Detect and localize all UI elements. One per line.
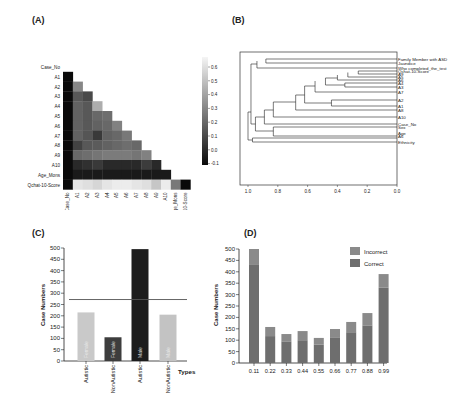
heatmap-cell [102, 121, 112, 131]
heatmap-cell [132, 150, 142, 160]
x-tick-label: 0.44 [297, 368, 308, 374]
heatmap-cell [112, 160, 122, 170]
heatmap-cell [63, 111, 73, 121]
heatmap-cell [122, 180, 132, 190]
heatmap-cell [92, 150, 102, 160]
bar-correct [265, 336, 275, 363]
heatmap-cell [141, 170, 151, 180]
heatmap-cell [112, 170, 122, 180]
heatmap-cell [63, 170, 73, 180]
bar-incorrect [281, 334, 291, 341]
bar-incorrect [362, 313, 372, 325]
heatmap-cell [181, 180, 191, 190]
heatmap-cell [63, 131, 73, 141]
heatmap-cell [92, 121, 102, 131]
bar [132, 249, 149, 361]
heatmap-col-label: A1 [75, 192, 80, 198]
dendrogram-leaf-label: Sex [398, 125, 406, 130]
heatmap-col-label: A7 [134, 192, 139, 198]
heatmap-col-label: A6 [124, 192, 129, 198]
heatmap-cell [83, 91, 93, 101]
legend-swatch [350, 259, 360, 267]
heatmap-cell [83, 121, 93, 131]
bar-correct [314, 345, 324, 363]
dendrogram-x-tick: 0.0 [394, 189, 401, 194]
heatmap-row-label: Qchat-10-Score [28, 183, 61, 188]
x-tick-label: NonAutistic [110, 365, 116, 393]
heatmap-cell [102, 140, 112, 150]
colorbar-tick: -0.1 [211, 161, 219, 166]
x-tick-label: 0.55 [313, 368, 324, 374]
y-tick-label: 100 [225, 337, 236, 343]
y-tick-label: 400 [225, 269, 236, 275]
heatmap-cell [102, 170, 112, 180]
x-axis-label: Types [178, 368, 196, 375]
heatmap-cell [83, 101, 93, 111]
heatmap-cell [112, 140, 122, 150]
heatmap-col-label: A3 [95, 192, 100, 198]
x-tick-label: NonAutistic [165, 365, 171, 393]
score-stacked-bar-chart: 050100150200250300350400450500Case Numbe… [235, 210, 470, 416]
bar-incorrect [265, 327, 275, 336]
heatmap-cell [63, 91, 73, 101]
heatmap-cell [92, 180, 102, 190]
bar-inner-label: Female [83, 341, 89, 358]
heatmap-cell [63, 140, 73, 150]
dendrogram-x-tick: 0.6 [304, 189, 311, 194]
bar-incorrect [330, 329, 340, 338]
heatmap-cell [112, 131, 122, 141]
y-tick-label: 350 [50, 279, 61, 285]
heatmap-col-label: Qchat-10-Score [183, 192, 188, 210]
x-tick-label: Autistic [137, 365, 143, 383]
y-tick-label: 200 [50, 313, 61, 319]
y-tick-label: 350 [225, 280, 236, 286]
heatmap-cell [92, 101, 102, 111]
heatmap-cell [73, 160, 83, 170]
legend-label: Incorrect [364, 249, 388, 255]
heatmap-cell [171, 180, 181, 190]
heatmap-cell [102, 180, 112, 190]
y-tick-label: 150 [50, 324, 61, 330]
heatmap-cell [161, 180, 171, 190]
dendrogram-x-tick: 0.8 [275, 189, 282, 194]
heatmap-cell [73, 82, 83, 92]
bar-correct [330, 338, 340, 363]
colorbar-tick: 0.6 [211, 65, 218, 70]
colorbar-tick: 0.5 [211, 79, 218, 84]
x-tick-label: 0.11 [249, 368, 259, 374]
heatmap-cell [73, 91, 83, 101]
heatmap-cell [102, 160, 112, 170]
heatmap-col-label: Age_Mons [173, 192, 178, 210]
y-tick-label: 0 [57, 358, 61, 364]
heatmap-col-label: A4 [105, 192, 110, 198]
bar-incorrect [346, 322, 356, 332]
bar-inner-label: Male [165, 347, 171, 358]
heatmap-cell [161, 170, 171, 180]
heatmap-col-label: A9 [154, 192, 159, 198]
heatmap-cell [112, 180, 122, 190]
colorbar-tick: 0.4 [211, 92, 218, 97]
heatmap-row-label: A2 [54, 85, 60, 90]
colorbar-tick: 0.3 [211, 106, 218, 111]
heatmap-cell [141, 160, 151, 170]
bar-incorrect [314, 338, 324, 345]
heatmap-cell [92, 160, 102, 170]
y-tick-label: 200 [225, 314, 236, 320]
heatmap-cell [122, 150, 132, 160]
heatmap-row-label: Case_No [41, 65, 61, 70]
heatmap-cell [141, 180, 151, 190]
bar-correct [281, 341, 291, 363]
dendrogram-leaf-label: A10 [398, 115, 406, 120]
legend-label: Correct [364, 261, 384, 267]
heatmap-col-label: A10 [163, 192, 168, 201]
y-tick-label: 250 [50, 302, 61, 308]
heatmap-row-label: Age_Mons [38, 173, 61, 178]
y-tick-label: 250 [225, 303, 236, 309]
y-tick-label: 300 [225, 292, 236, 298]
x-tick-label: 0.22 [265, 368, 276, 374]
x-tick-label: 0.33 [281, 368, 292, 374]
heatmap-cell [63, 72, 73, 82]
bar-correct [379, 288, 389, 363]
x-tick-label: 0.66 [330, 368, 341, 374]
y-tick-label: 500 [225, 246, 236, 252]
